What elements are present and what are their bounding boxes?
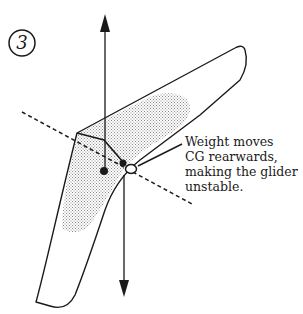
lift-arrow-head-icon <box>100 14 110 32</box>
weight-arrow-head-icon <box>119 280 129 297</box>
annotation-line-2: CG rearwards, <box>185 149 298 164</box>
annotation-text: Weight moves CG rearwards, making the gl… <box>185 134 298 194</box>
annotation-line-1: Weight moves <box>185 134 298 149</box>
annotation-line-3: making the glider <box>185 164 298 179</box>
pilot-weight-open-circle <box>126 165 137 174</box>
step-number-label: 3 <box>9 30 35 56</box>
annotation-line-4: unstable. <box>185 179 298 194</box>
center-of-gravity-dot <box>120 160 127 167</box>
center-of-pressure-dot <box>100 167 108 175</box>
